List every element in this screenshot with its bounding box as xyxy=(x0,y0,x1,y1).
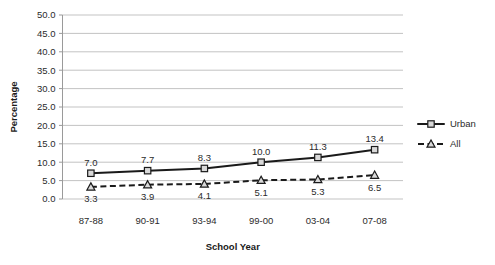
y-axis-title: Percentage xyxy=(8,81,19,132)
y-tick-label: 0.0 xyxy=(42,193,55,204)
data-point-marker-urban xyxy=(258,159,264,165)
data-label-urban: 8.3 xyxy=(198,152,211,163)
x-tick-label: 99-00 xyxy=(249,215,273,226)
data-label-all: 4.1 xyxy=(198,190,211,201)
series-group xyxy=(87,146,379,190)
y-tick-label: 30.0 xyxy=(37,83,56,94)
x-tick-label: 87-88 xyxy=(79,215,103,226)
data-label-urban: 7.7 xyxy=(141,154,154,165)
legend-item-urban[interactable]: Urban xyxy=(418,118,476,129)
data-point-marker-urban xyxy=(371,146,377,152)
legend-label-urban: Urban xyxy=(450,118,476,129)
data-label-urban: 7.0 xyxy=(84,157,97,168)
data-label-urban: 13.4 xyxy=(365,133,384,144)
y-tick-label: 40.0 xyxy=(37,46,56,57)
data-label-urban: 10.0 xyxy=(252,146,271,157)
x-tick-label: 03-04 xyxy=(306,215,330,226)
data-label-all: 6.5 xyxy=(368,182,381,193)
legend-item-all[interactable]: All xyxy=(418,138,461,149)
x-axis-title: School Year xyxy=(206,241,261,252)
chart-legend: UrbanAll xyxy=(418,118,476,149)
y-tick-label: 50.0 xyxy=(37,9,56,20)
line-chart: 50.045.040.035.030.025.020.015.010.05.00… xyxy=(0,0,495,265)
y-tick-label: 5.0 xyxy=(42,175,55,186)
y-tick-label: 15.0 xyxy=(37,138,56,149)
y-tick-label: 20.0 xyxy=(37,120,56,131)
y-tick-label: 25.0 xyxy=(37,101,56,112)
tick-marks-group xyxy=(59,15,63,199)
series-line-urban xyxy=(91,150,375,174)
y-tick-label: 35.0 xyxy=(37,65,56,76)
data-point-marker-urban xyxy=(315,154,321,160)
legend-label-all: All xyxy=(450,138,461,149)
data-point-marker-urban xyxy=(88,170,94,176)
x-tick-label: 90-91 xyxy=(135,215,159,226)
y-tick-label: 45.0 xyxy=(37,28,56,39)
data-label-all: 3.3 xyxy=(84,193,97,204)
data-label-all: 5.1 xyxy=(255,187,268,198)
y-tick-label: 10.0 xyxy=(37,157,56,168)
data-label-all: 5.3 xyxy=(311,186,324,197)
chart-container: 50.045.040.035.030.025.020.015.010.05.00… xyxy=(0,0,495,265)
x-tick-labels-group: 87-8890-9193-9499-0003-0407-08 xyxy=(79,215,387,226)
data-label-urban: 11.3 xyxy=(309,141,327,152)
x-tick-label: 07-08 xyxy=(362,215,386,226)
data-point-marker-legend-urban xyxy=(428,121,434,127)
data-label-all: 3.9 xyxy=(141,191,154,202)
x-tick-label: 93-94 xyxy=(192,215,216,226)
data-point-marker-urban xyxy=(144,167,150,173)
y-tick-labels-group: 50.045.040.035.030.025.020.015.010.05.00… xyxy=(37,9,56,204)
data-point-marker-urban xyxy=(201,165,207,171)
